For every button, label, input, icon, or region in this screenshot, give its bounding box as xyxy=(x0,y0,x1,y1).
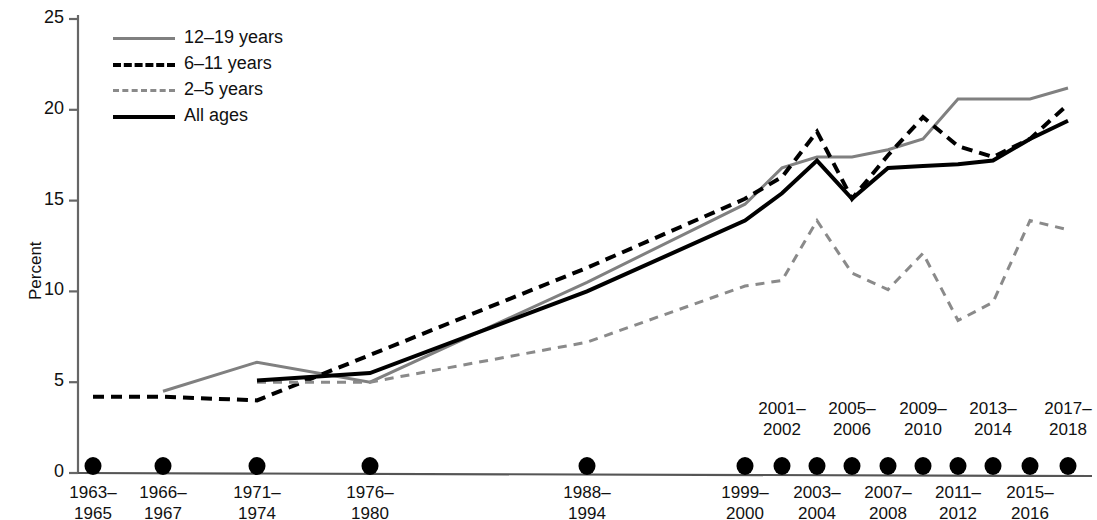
y-axis-tick-label: 25 xyxy=(18,7,64,28)
axis-marker-dot xyxy=(1022,457,1039,475)
axis-marker-dot xyxy=(809,457,826,475)
x-axis-tick-label: 1971–1974 xyxy=(214,482,300,520)
series-line-2 xyxy=(93,104,1068,400)
x-axis-tick-label: 2013–2014 xyxy=(950,398,1036,440)
legend-item[interactable]: 2–5 years xyxy=(113,76,363,102)
axis-marker-dot xyxy=(950,457,967,475)
chart-legend: 12–19 years6–11 years2–5 yearsAll ages xyxy=(113,24,363,128)
legend-item-label: 6–11 years xyxy=(184,53,272,74)
x-tick-line2: 2016 xyxy=(987,503,1073,520)
y-axis-tick-label: 10 xyxy=(18,279,64,300)
x-tick-line2: 2014 xyxy=(950,419,1036,440)
x-tick-line1: 2013– xyxy=(950,398,1036,419)
axis-marker-dot xyxy=(985,457,1002,475)
x-tick-line1: 2017– xyxy=(1025,398,1097,419)
axis-marker-dot xyxy=(362,457,379,475)
chart-figure: Percent 12–19 years6–11 years2–5 yearsAl… xyxy=(0,0,1097,520)
line-solid-black-icon xyxy=(113,108,175,122)
axis-marker-dot xyxy=(155,457,172,475)
axis-marker-dot xyxy=(85,457,102,475)
axis-marker-dot xyxy=(737,457,754,475)
x-tick-line2: 1967 xyxy=(120,503,206,520)
y-axis-tick-label: 0 xyxy=(18,461,64,482)
axis-marker-dot xyxy=(844,457,861,475)
x-tick-line2: 1994 xyxy=(544,503,630,520)
x-axis-tick-label: 1976–1980 xyxy=(327,482,413,520)
legend-item[interactable]: All ages xyxy=(113,102,363,128)
x-tick-line2: 2018 xyxy=(1025,419,1097,440)
legend-item-label: 12–19 years xyxy=(184,27,283,48)
x-axis-tick-label: 2017–2018 xyxy=(1025,398,1097,440)
x-tick-line1: 1971– xyxy=(214,482,300,503)
axis-marker-dot xyxy=(880,457,897,475)
axis-marker-dot xyxy=(915,457,932,475)
x-axis-tick-label: 1988–1994 xyxy=(544,482,630,520)
axis-marker-dot xyxy=(1060,457,1077,475)
axis-marker-dot xyxy=(774,457,791,475)
x-tick-line1: 1966– xyxy=(120,482,206,503)
y-axis-tick-label: 5 xyxy=(18,370,64,391)
legend-item-label: All ages xyxy=(184,105,248,126)
x-tick-line1: 1988– xyxy=(544,482,630,503)
line-dashed-black-icon xyxy=(113,56,175,70)
y-axis-tick-label: 15 xyxy=(18,189,64,210)
line-solid-gray-icon xyxy=(113,30,175,44)
legend-item[interactable]: 12–19 years xyxy=(113,24,363,50)
legend-item-label: 2–5 years xyxy=(184,79,263,100)
axis-marker-dot xyxy=(249,457,266,475)
x-tick-line2: 1980 xyxy=(327,503,413,520)
x-axis-tick-label: 1966–1967 xyxy=(120,482,206,520)
x-tick-line1: 2015– xyxy=(987,482,1073,503)
x-tick-line1: 1976– xyxy=(327,482,413,503)
y-axis-tick-label: 20 xyxy=(18,98,64,119)
x-tick-line2: 1974 xyxy=(214,503,300,520)
series-line-1 xyxy=(163,88,1068,391)
series-line-4 xyxy=(257,121,1068,381)
x-axis-tick-label: 2015–2016 xyxy=(987,482,1073,520)
axis-marker-dot xyxy=(579,457,596,475)
legend-item[interactable]: 6–11 years xyxy=(113,50,363,76)
line-dashed-gray-icon xyxy=(113,82,175,96)
